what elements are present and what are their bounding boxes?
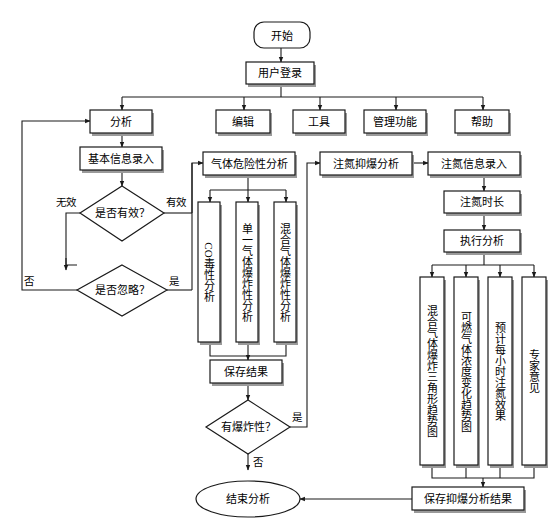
node-tri-trend[interactable]: 混合气体爆炸三角形趋势图 (420, 277, 446, 468)
node-conc-trend-label: 可燃气体浓度变化趋势图 (460, 311, 473, 433)
node-gas-hazard-label: 气体危险性分析 (211, 157, 288, 170)
node-gas-hazard[interactable]: 气体危险性分析 (203, 152, 297, 178)
flowchart-canvas: 开始 用户登录 分析 编辑 工具 管理功能 帮助 基本信息录入 (0, 0, 554, 528)
edge-label-invalid: 无效 (56, 196, 77, 208)
node-conc-trend[interactable]: 可燃气体浓度变化趋势图 (454, 277, 480, 468)
node-single-gas[interactable]: 单一气体爆炸性分析 (236, 202, 260, 345)
node-mixed-gas[interactable]: 混合气体爆炸性分析 (274, 202, 298, 345)
edge-label-explosive-yes: 是 (292, 412, 303, 423)
node-single-gas-label: 单一气体爆炸性分析 (241, 223, 254, 323)
node-save-suppress[interactable]: 保存抑爆分析结果 (412, 487, 526, 513)
node-co-tox[interactable]: CO毒性分析 (198, 202, 222, 345)
edge-valid-invalid (66, 213, 80, 265)
node-n2-suppress[interactable]: 注氮抑爆分析 (320, 152, 414, 178)
node-menu-edit-label: 编辑 (232, 115, 254, 128)
node-end[interactable]: 结束分析 (196, 481, 300, 517)
edge-label-ignore-yes: 是 (169, 276, 180, 287)
node-basic-info[interactable]: 基本信息录入 (80, 147, 164, 173)
node-expert[interactable]: 专家意见 (522, 277, 548, 468)
node-valid-question[interactable]: 是否有效？ (80, 186, 164, 241)
node-run-analysis[interactable]: 执行分析 (444, 230, 522, 255)
node-menu-edit[interactable]: 编辑 (216, 110, 272, 136)
node-menu-tools-label: 工具 (308, 116, 330, 128)
node-n2-duration-label: 注氮时长 (460, 195, 504, 208)
node-n2-info[interactable]: 注氮信息录入 (428, 152, 522, 178)
node-tri-trend-label: 混合气体爆炸三角形趋势图 (426, 305, 439, 438)
node-expert-label: 专家意见 (528, 348, 541, 394)
node-n2-duration[interactable]: 注氮时长 (444, 191, 522, 216)
node-save-result[interactable]: 保存结果 (210, 360, 284, 386)
node-explosive-question-label: 有爆炸性？ (221, 420, 276, 433)
node-start[interactable]: 开始 (254, 22, 310, 48)
node-start-label: 开始 (271, 29, 293, 42)
node-end-label: 结束分析 (226, 492, 270, 505)
node-menu-tools[interactable]: 工具 (293, 110, 347, 136)
node-run-analysis-label: 执行分析 (460, 234, 504, 247)
node-explosive-question[interactable]: 有爆炸性？ (206, 400, 290, 454)
node-login[interactable]: 用户登录 (246, 62, 316, 87)
node-ignore-question-label: 是否忽略？ (95, 283, 150, 296)
node-mixed-gas-label: 混合气体爆炸性分析 (279, 223, 292, 323)
node-menu-help[interactable]: 帮助 (455, 110, 511, 136)
node-login-label: 用户登录 (258, 66, 302, 79)
node-hourly-effect[interactable]: 预计每小时注氮效果 (488, 277, 514, 468)
node-ignore-question[interactable]: 是否忽略？ (77, 265, 167, 316)
edge-merge-savesuppress (432, 468, 534, 478)
node-menu-admin[interactable]: 管理功能 (364, 110, 428, 136)
node-n2-info-label: 注氮信息录入 (441, 157, 507, 170)
node-valid-question-label: 是否有效？ (95, 206, 150, 219)
node-menu-help-label: 帮助 (471, 115, 493, 128)
node-basic-info-label: 基本信息录入 (88, 152, 154, 165)
node-menu-analysis[interactable]: 分析 (90, 110, 154, 136)
edge-label-explosive-no: 否 (253, 457, 264, 468)
edge-label-valid: 有效 (166, 196, 187, 208)
node-hourly-effect-label: 预计每小时注氮效果 (494, 322, 507, 422)
node-co-tox-label: CO毒性分析 (203, 242, 216, 302)
node-menu-analysis-label: 分析 (110, 115, 132, 128)
edge-label-ignore-no: 否 (24, 276, 35, 287)
node-n2-suppress-label: 注氮抑爆分析 (333, 157, 399, 170)
node-menu-admin-label: 管理功能 (373, 115, 417, 128)
node-save-suppress-label: 保存抑爆分析结果 (424, 492, 512, 505)
node-save-result-label: 保存结果 (224, 365, 268, 378)
